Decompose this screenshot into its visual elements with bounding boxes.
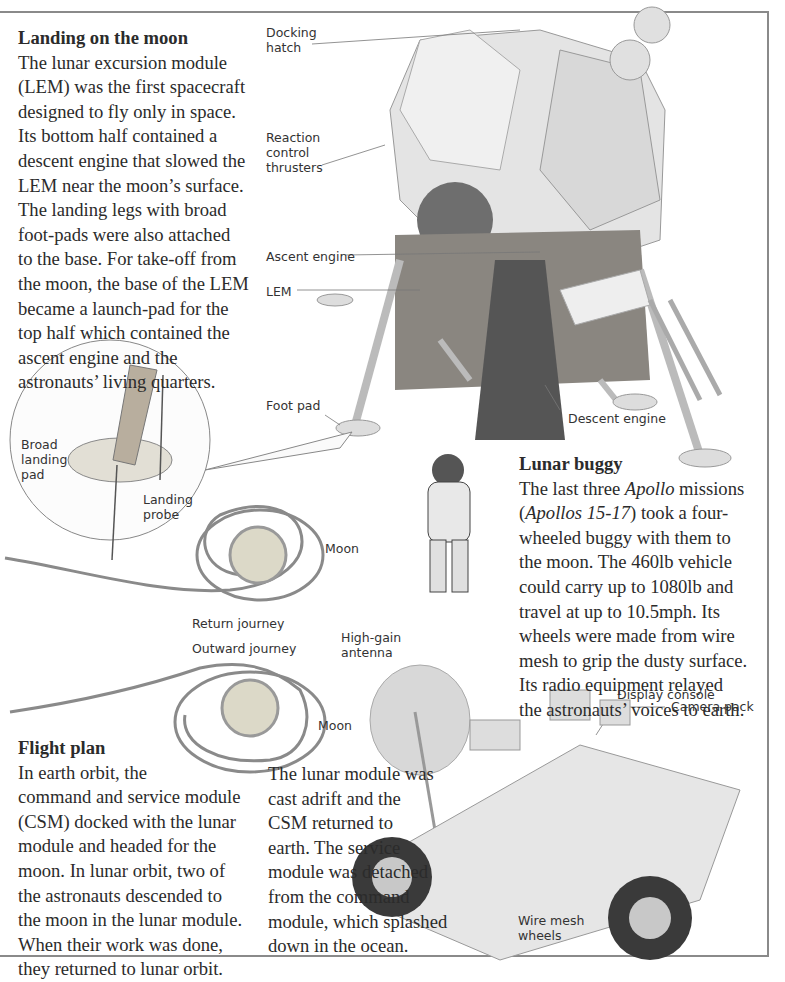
return-line: CSM returned to [268,811,468,836]
label-foot-pad: Foot pad [266,398,320,413]
flight-plan-line: module and headed for the [18,834,288,859]
lem-illustration [317,7,731,467]
landing-line: Its bottom half contained a [18,124,288,149]
return-line: The lunar module was [268,762,468,787]
return-line: earth. The service [268,836,468,861]
buggy-line: could carry up to 1080lb and [519,575,781,600]
return-line: module, which splashed [268,910,468,935]
flight-plan-line: In earth orbit, the [18,761,288,786]
label-camera-pack: Camera pack [671,699,754,714]
landing-line: The lunar excursion module [18,51,288,76]
landing-line: The landing legs with broad [18,198,288,223]
landing-line: LEM near the moon’s surface. [18,174,288,199]
flight-plan-title: Flight plan [18,736,288,761]
buggy-line: wheeled buggy with them to [519,526,781,551]
return-line: down in the ocean. [268,934,468,959]
landing-line: foot-pads were also attached [18,223,288,248]
landing-line: top half which contained the [18,321,288,346]
astronaut-illustration [428,454,470,592]
buggy-line: mesh to grip the dusty surface. [519,649,781,674]
buggy-title: Lunar buggy [519,452,781,477]
buggy-line: the moon. The 460lb vehicle [519,550,781,575]
label-outward-journey: Outward journey [192,641,296,656]
buggy-line: (Apollos 15-17) took a four- [519,501,781,526]
return-line: cast adrift and the [268,787,468,812]
flight-plan-line: the moon in the lunar module. [18,908,288,933]
flight-plan-line: (CSM) docked with the lunar [18,810,288,835]
label-wire-mesh-wheels: Wire mesh wheels [518,913,584,943]
label-high-gain-antenna: High-gain antenna [341,630,401,660]
return-line: module was detached [268,860,468,885]
landing-line: designed to fly only in space. [18,100,288,125]
buggy-italic: Apollos 15-17 [525,502,630,523]
label-lem: LEM [266,284,292,299]
label-return-journey: Return journey [192,616,284,631]
label-landing-probe: Landing probe [143,492,193,522]
landing-line: to the base. For take-off from [18,247,288,272]
flight-plan-section: Flight plan In earth orbit, the command … [18,736,288,982]
landing-line: descent engine that slowed the [18,149,288,174]
buggy-text: missions [674,478,744,499]
buggy-italic: Apollo [625,478,675,499]
label-reaction-control-thrusters: Reaction control thrusters [266,130,323,175]
buggy-section: Lunar buggy The last three Apollo missio… [519,452,781,723]
return-section: The lunar module was cast adrift and the… [268,762,468,959]
buggy-text: ) took a four- [630,502,728,523]
landing-title: Landing on the moon [18,26,288,51]
flight-plan-line: moon. In lunar orbit, two of [18,859,288,884]
buggy-line: wheels were made from wire [519,624,781,649]
flight-plan-line: When their work was done, [18,933,288,958]
label-broad-landing-pad: Broad landing pad [21,437,67,482]
landing-section: Landing on the moon The lunar excursion … [18,26,288,395]
label-moon-2: Moon [318,718,352,733]
buggy-line: The last three Apollo missions [519,477,781,502]
landing-line: ascent engine and the [18,346,288,371]
label-descent-engine: Descent engine [568,411,666,426]
label-ascent-engine: Ascent engine [266,249,355,264]
landing-line: the moon, the base of the LEM [18,272,288,297]
flight-plan-line: they returned to lunar orbit. [18,957,288,982]
landing-line: (LEM) was the first spacecraft [18,75,288,100]
flight-plan-line: command and service module [18,785,288,810]
flight-plan-line: the astronauts descended to [18,884,288,909]
return-line: from the command [268,885,468,910]
label-docking-hatch: Docking hatch [266,25,317,55]
buggy-line: travel at up to 10.5mph. Its [519,600,781,625]
landing-line: became a launch-pad for the [18,297,288,322]
buggy-text: The last three [519,478,625,499]
landing-line: astronauts’ living quarters. [18,370,288,395]
label-moon-1: Moon [325,541,359,556]
